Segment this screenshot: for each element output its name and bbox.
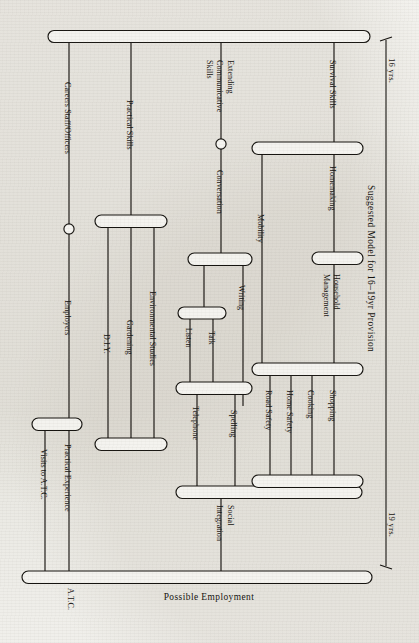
label-spelling: Spelling: [229, 410, 238, 437]
label-practical-skills: Practical Skills: [125, 100, 134, 150]
node-careers-employers: [64, 224, 74, 234]
practical-skills-branch-bar: [95, 215, 167, 228]
label-listen: Listen: [184, 328, 193, 347]
label-atc: A.T.C.: [66, 588, 75, 610]
atc-branch-bar: [32, 418, 82, 431]
provision-model-diagram: 16 yrs. 19 yrs. Suggested Model for 16–1…: [0, 0, 419, 643]
label-communicative: Communicative: [215, 60, 224, 113]
practical-skills-close-bar: [95, 438, 167, 451]
survival-detail-branch-bar: [252, 363, 363, 376]
listen-talk-branch-bar: [178, 307, 226, 319]
bottom-spine-bar: [22, 571, 372, 584]
label-careers-staff: Careers Staff/Officers: [63, 82, 72, 154]
label-visits-to-atc: Visits to A.T.C.: [39, 449, 48, 500]
label-cooking: Cooking: [306, 390, 315, 418]
label-skills: Skills: [205, 60, 214, 79]
timeline-axis: [380, 37, 392, 569]
axis-label-19yrs: 19 yrs.: [387, 512, 397, 537]
label-diy: D.I.Y.: [102, 334, 111, 354]
footer-possible-employment: Possible Employment: [164, 592, 255, 602]
homemaking-branch-bar: [312, 252, 363, 265]
label-home-safety: Home Safety: [285, 390, 294, 434]
label-telephone: Telephone: [191, 406, 200, 440]
label-homemaking: Homemaking: [328, 166, 337, 211]
label-social: Social: [226, 505, 235, 526]
survival-detail-close-bar: [252, 475, 363, 488]
label-employers: Employers: [63, 300, 72, 336]
survival-skills-branch-bar: [252, 142, 363, 155]
label-conversation: Conversation: [215, 170, 224, 214]
label-extending: Extending: [226, 60, 235, 94]
label-practical-experience: Practical Experience: [63, 444, 72, 512]
conversation-branch-bar: [188, 253, 252, 266]
label-survival-skills: Survival Skills: [328, 60, 337, 109]
telephone-spelling-branch-bar: [176, 382, 252, 395]
label-integration: Integration: [215, 505, 224, 541]
label-management: Management: [322, 274, 331, 317]
label-gardening: Gardening: [125, 320, 134, 355]
label-shopping: Shopping: [328, 390, 337, 421]
node-communicative-conversation: [216, 139, 226, 149]
label-environmental-studies: Environmental Studies: [148, 291, 157, 366]
axis-label-16yrs: 16 yrs.: [387, 58, 397, 83]
label-mobility: Mobility: [256, 214, 265, 244]
top-spine-bar: [48, 31, 370, 43]
label-talk: Talk: [207, 331, 216, 345]
label-writing: Writing: [237, 285, 246, 310]
label-household: Household: [332, 274, 341, 310]
figure-title: Suggested Model for 16–19yr Provision: [366, 185, 376, 352]
label-road-safety: Road Safety: [264, 390, 273, 431]
